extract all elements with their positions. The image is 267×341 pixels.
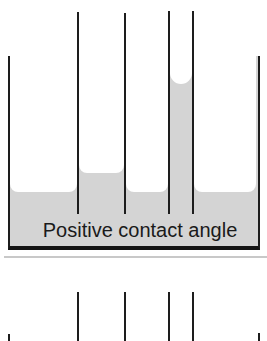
upper-panel-caption: Positive contact angle xyxy=(20,219,260,241)
scan-artifact-line xyxy=(4,256,267,258)
lower-wide-tube-right-wall xyxy=(124,292,126,341)
narrow-tube-right-wall xyxy=(192,11,194,214)
wide-tube-right-wall xyxy=(124,13,126,214)
air-column-wide-tube xyxy=(79,0,124,173)
wide-tube-left-wall xyxy=(77,12,79,214)
lower-narrow-tube-right-wall xyxy=(192,292,194,341)
air-gap-left-of-wide-tube xyxy=(10,46,77,192)
lower-narrow-tube-left-wall xyxy=(168,292,170,341)
air-column-narrow-tube xyxy=(170,0,192,84)
air-gap-right-of-narrow-tube xyxy=(194,0,256,192)
lower-beaker-right-wall xyxy=(258,333,260,341)
capillarity-diagram: Positive contact angle xyxy=(0,0,267,341)
air-gap-between-tubes xyxy=(126,0,168,192)
narrow-tube-left-wall xyxy=(168,11,170,214)
lower-beaker-left-wall xyxy=(8,334,10,341)
lower-wide-tube-left-wall xyxy=(77,292,79,341)
